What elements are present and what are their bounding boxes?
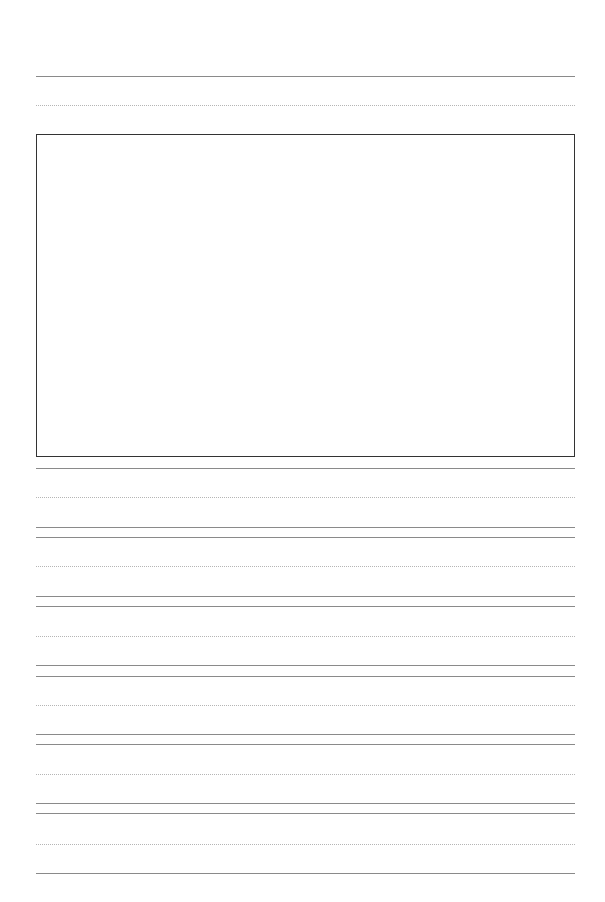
row-top-line xyxy=(36,744,575,745)
drawing-box[interactable] xyxy=(36,134,575,457)
row-midline-dotted xyxy=(36,774,575,775)
row-base-line xyxy=(36,803,575,804)
row-top-line xyxy=(36,606,575,607)
row-midline-dotted xyxy=(36,636,575,637)
row-top-line xyxy=(36,468,575,469)
row-midline-dotted xyxy=(36,705,575,706)
row-base-line xyxy=(36,665,575,666)
row-midline-dotted xyxy=(36,566,575,567)
row-top-line xyxy=(36,537,575,538)
row-midline-dotted xyxy=(36,497,575,498)
row-top-line xyxy=(36,813,575,814)
header-midline-dotted xyxy=(36,105,575,106)
row-midline-dotted xyxy=(36,844,575,845)
row-base-line xyxy=(36,596,575,597)
row-base-line xyxy=(36,527,575,528)
row-base-line xyxy=(36,873,575,874)
row-base-line xyxy=(36,734,575,735)
header-top-line xyxy=(36,76,575,77)
row-top-line xyxy=(36,676,575,677)
